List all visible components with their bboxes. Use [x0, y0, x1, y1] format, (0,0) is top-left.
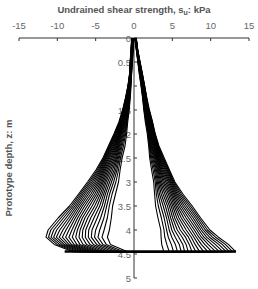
x-axis-title: Undrained shear strength, su: kPa: [57, 4, 211, 16]
x-tick-label: -5: [91, 20, 99, 31]
x-tick-label: 5: [170, 20, 175, 31]
y-tick-label: 0.5: [118, 57, 131, 68]
x-axis-title-main: Undrained shear strength, s: [57, 4, 183, 15]
strength-profiles: [46, 38, 236, 252]
profile-right: [135, 38, 192, 252]
y-tick-label: 5: [126, 273, 131, 284]
y-tick-label: 0: [126, 33, 131, 44]
x-tick-label: 0: [131, 20, 136, 31]
x-tick-label: -15: [12, 20, 26, 31]
x-axis-title-units: : kPa: [188, 4, 211, 15]
x-tick-label: 10: [205, 20, 216, 31]
y-tick-label: 3: [126, 177, 131, 188]
y-tick-label: 4: [126, 225, 131, 236]
y-tick-label: 3.5: [118, 201, 131, 212]
x-tick-label: 15: [244, 20, 255, 31]
shear-strength-chart: Undrained shear strength, su: kPa -15-10…: [0, 0, 258, 289]
svg-text:Undrained shear strength, su:: Undrained shear strength, su: kPa: [57, 4, 211, 16]
x-axis: -15-10-5051015: [12, 20, 254, 41]
profile-left: [69, 38, 133, 252]
y-axis-title: Prototype depth, z: m: [3, 119, 14, 216]
x-tick-label: -10: [50, 20, 64, 31]
